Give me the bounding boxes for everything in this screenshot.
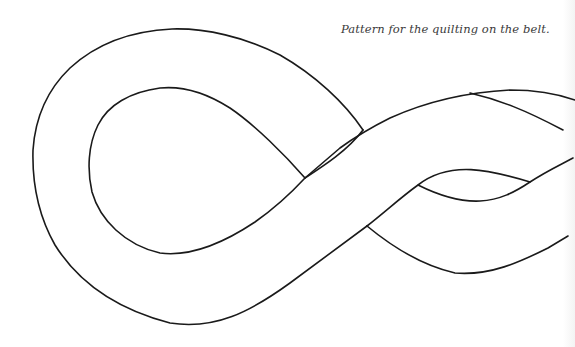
belt-diagonal-lower-line bbox=[367, 158, 573, 226]
belt-upper-edge-line bbox=[305, 90, 575, 178]
outer-loop-line bbox=[33, 29, 367, 325]
quilting-pattern-drawing bbox=[0, 0, 575, 347]
inner-loop-line bbox=[89, 88, 305, 254]
document-page: Pattern for the quilting on the belt. bbox=[0, 0, 575, 347]
lens-lower-line bbox=[418, 182, 530, 201]
belt-lower-curve-line bbox=[367, 226, 568, 273]
belt-top-right-line bbox=[470, 93, 563, 130]
